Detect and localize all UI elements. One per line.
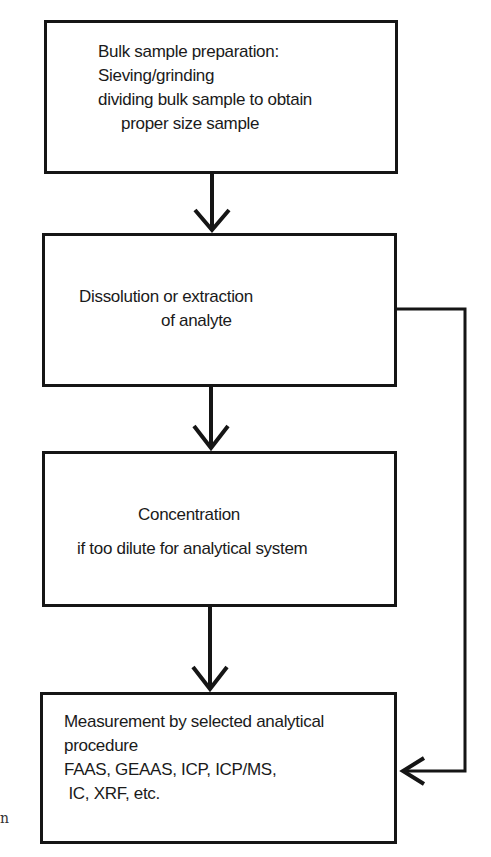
arrow-down-icon bbox=[194, 386, 228, 448]
box-text: dividing bulk sample to obtain bbox=[98, 89, 312, 111]
margin-fragment: n bbox=[0, 810, 9, 826]
box-text: procedure bbox=[64, 735, 138, 757]
box-text: if too dilute for analytical system bbox=[77, 538, 307, 560]
box-text: proper size sample bbox=[121, 113, 259, 135]
box-text: of analyte bbox=[161, 310, 232, 332]
arrow-down-icon bbox=[195, 173, 229, 230]
box-text: Dissolution or extraction bbox=[79, 286, 253, 308]
box-text: IC, XRF, etc. bbox=[64, 783, 160, 805]
box-text: Concentration bbox=[138, 504, 240, 526]
bypass-arrow-icon bbox=[396, 309, 465, 784]
box-bulk-sample-preparation: Bulk sample preparation: Sieving/grindin… bbox=[44, 20, 398, 174]
box-text: Measurement by selected analytical bbox=[64, 711, 324, 733]
box-dissolution: Dissolution or extraction of analyte bbox=[42, 233, 397, 387]
box-text: Bulk sample preparation: bbox=[98, 41, 279, 63]
box-text: Sieving/grinding bbox=[98, 65, 214, 87]
box-concentration: Concentration if too dilute for analytic… bbox=[42, 451, 397, 607]
arrow-down-icon bbox=[193, 606, 227, 689]
box-measurement: Measurement by selected analytical proce… bbox=[40, 692, 397, 844]
box-text: FAAS, GEAAS, ICP, ICP/MS, bbox=[64, 759, 276, 781]
